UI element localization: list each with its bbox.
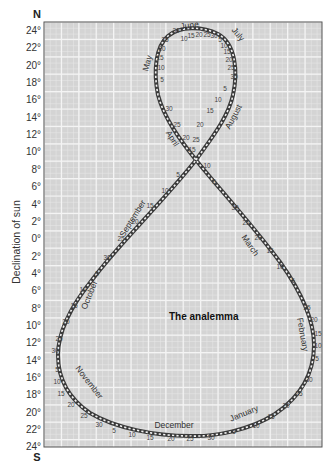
day-label: 15 [267, 413, 275, 420]
day-label: 15 [188, 146, 196, 153]
day-label: 25 [303, 304, 311, 311]
day-label: 5 [95, 270, 99, 277]
day-label: 30 [210, 32, 218, 39]
day-label: 20 [254, 234, 262, 241]
day-label: 5 [232, 428, 236, 435]
day-label: 15 [223, 48, 231, 55]
day-label: 30 [230, 73, 238, 80]
day-label: 10 [314, 342, 322, 349]
y-tick-label: 20° [26, 407, 41, 418]
y-tick-label: 18° [26, 389, 41, 400]
y-tick-label: 14° [26, 355, 41, 366]
y-tick-label: 16° [26, 372, 41, 383]
day-label: 15 [187, 32, 195, 39]
day-label: 20 [131, 218, 139, 225]
y-tick-label: 16° [26, 94, 41, 105]
day-label: 25 [227, 64, 235, 71]
day-label: 20 [282, 402, 290, 409]
y-tick-label: 24° [26, 441, 41, 452]
day-label: 20 [310, 316, 318, 323]
y-tick-label: 12° [26, 129, 41, 140]
day-label: 5 [223, 85, 227, 92]
day-label: 30 [172, 27, 180, 34]
day-label: 10 [128, 431, 136, 438]
day-label: 5 [176, 171, 180, 178]
day-label: 15 [206, 107, 214, 114]
day-label: 30 [95, 421, 103, 428]
south-label: S [33, 451, 40, 463]
day-label: 25 [186, 435, 194, 442]
y-tick-label: 18° [26, 77, 41, 88]
day-label: 15 [314, 330, 322, 337]
day-label: 30 [165, 105, 173, 112]
y-tick-label: 10° [26, 320, 41, 331]
day-label: 5 [315, 355, 319, 362]
y-tick-label: 6° [31, 181, 41, 192]
y-tick-label: 2° [31, 251, 41, 262]
day-label: 20 [158, 45, 166, 52]
day-label: 25 [192, 136, 200, 143]
y-tick-label: 12° [26, 337, 41, 348]
day-label: 30 [207, 434, 215, 441]
y-tick-label: 22° [26, 424, 41, 435]
month-label-december: December [154, 420, 193, 430]
day-label: 10 [157, 64, 165, 71]
day-label: 20 [182, 134, 190, 141]
day-label: 20 [225, 56, 233, 63]
y-tick-label: 14° [26, 112, 41, 123]
day-label: 20 [62, 318, 70, 325]
north-label: N [33, 8, 41, 20]
diagram-title: The analemma [169, 311, 239, 322]
day-label: 10 [79, 286, 87, 293]
day-label: 10 [53, 378, 61, 385]
day-label: 30 [305, 376, 313, 383]
day-label: 5 [112, 427, 116, 434]
y-tick-label: 22° [26, 42, 41, 53]
day-label: 15 [156, 54, 164, 61]
y-tick-label: 20° [26, 60, 41, 71]
day-label: 30 [103, 254, 111, 261]
day-label: 25 [161, 36, 169, 43]
day-label: 5 [160, 76, 164, 83]
y-axis-title: Declination of sun [10, 200, 22, 284]
day-label: 20 [196, 121, 204, 128]
y-tick-label: 8° [31, 303, 41, 314]
y-tick-label: 10° [26, 146, 41, 157]
y-tick-label: 24° [26, 25, 41, 36]
y-tick-label: 4° [31, 199, 41, 210]
day-label: 15 [70, 302, 78, 309]
day-label: 15 [266, 247, 274, 254]
day-label: 5 [291, 277, 295, 284]
y-tick-label: 4° [31, 268, 41, 279]
day-label: 25 [242, 219, 250, 226]
day-label: 25 [173, 121, 181, 128]
day-label: 25 [80, 412, 88, 419]
day-label: 10 [252, 422, 260, 429]
day-label: 10 [161, 187, 169, 194]
day-label: 15 [146, 434, 154, 441]
y-tick-label: 8° [31, 164, 41, 175]
day-label: 10 [276, 263, 284, 270]
day-label: 20 [167, 435, 175, 442]
day-label: 5 [55, 366, 59, 373]
day-label: 10 [214, 96, 222, 103]
day-label: 20 [67, 401, 75, 408]
day-label: 20 [195, 31, 203, 38]
day-label: 25 [295, 390, 303, 397]
y-tick-labels: 24°22°20°18°16°14°12°10°8°6°4°2°0°2°4°6°… [26, 25, 41, 452]
day-label: 30 [51, 347, 59, 354]
day-label: 25 [117, 235, 125, 242]
day-label: 5 [212, 178, 216, 185]
y-tick-label: 6° [31, 285, 41, 296]
day-label: 30 [231, 204, 239, 211]
y-tick-label: 0° [31, 233, 41, 244]
day-label: 10 [203, 162, 211, 169]
day-label: 15 [146, 202, 154, 209]
y-tick-label: 2° [31, 216, 41, 227]
day-label: 15 [57, 390, 65, 397]
analemma-diagram: N S Declination of sun 24°22°20°18°16°14… [0, 0, 332, 466]
day-label: 25 [55, 335, 63, 342]
